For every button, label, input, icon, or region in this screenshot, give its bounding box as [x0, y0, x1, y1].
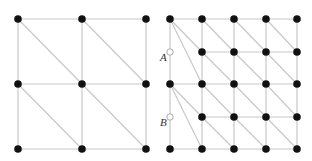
right-mesh-node — [166, 80, 174, 88]
right-mesh-edge — [202, 84, 234, 117]
left-mesh-node — [142, 15, 150, 23]
right-mesh-edge — [170, 84, 202, 149]
right-mesh-node — [230, 15, 238, 23]
right-mesh-edge — [234, 52, 266, 84]
right-mesh-node — [262, 145, 270, 153]
right-refined-mesh — [166, 15, 301, 153]
hanging-node-a — [167, 49, 173, 55]
mesh-diagram: A B — [0, 0, 312, 161]
left-mesh-node — [142, 80, 150, 88]
left-mesh-node — [14, 80, 22, 88]
right-mesh-edge — [234, 19, 266, 52]
right-mesh-node — [198, 145, 206, 153]
right-mesh-node — [293, 145, 301, 153]
hanging-node-b — [167, 114, 173, 120]
right-mesh-edge — [234, 84, 266, 117]
right-mesh-node — [230, 48, 238, 56]
left-mesh-node — [142, 145, 150, 153]
right-mesh-node — [293, 15, 301, 23]
right-mesh-edge — [234, 117, 266, 149]
right-mesh-edge — [266, 52, 297, 84]
right-mesh-node — [262, 48, 270, 56]
right-mesh-edge — [202, 19, 234, 52]
right-mesh-node — [198, 113, 206, 121]
right-mesh-node — [198, 80, 206, 88]
left-mesh-edge — [18, 19, 82, 84]
right-mesh-edge — [170, 19, 202, 52]
hanging-node-label-b: B — [160, 116, 167, 128]
right-mesh-edge — [202, 52, 234, 84]
right-mesh-node — [293, 48, 301, 56]
left-mesh-node — [78, 15, 86, 23]
left-coarse-mesh — [14, 15, 150, 153]
right-mesh-node — [230, 113, 238, 121]
left-mesh-edge — [18, 84, 82, 149]
left-mesh-edge — [82, 19, 146, 84]
right-mesh-node — [262, 15, 270, 23]
right-mesh-edge — [170, 84, 202, 117]
left-mesh-node — [78, 145, 86, 153]
right-mesh-node — [198, 48, 206, 56]
right-mesh-edge — [266, 19, 297, 52]
right-mesh-node — [293, 113, 301, 121]
left-mesh-node — [14, 145, 22, 153]
right-mesh-edge — [266, 117, 297, 149]
right-mesh-node — [166, 145, 174, 153]
right-mesh-edge — [202, 117, 234, 149]
left-mesh-node — [14, 15, 22, 23]
right-mesh-node — [293, 80, 301, 88]
right-mesh-node — [198, 15, 206, 23]
hanging-node-label-a: A — [159, 51, 167, 63]
right-mesh-node — [262, 80, 270, 88]
right-mesh-edge — [170, 19, 202, 84]
left-mesh-edge — [82, 84, 146, 149]
right-mesh-node — [166, 15, 174, 23]
right-mesh-node — [230, 80, 238, 88]
left-mesh-node — [78, 80, 86, 88]
right-mesh-edge — [266, 84, 297, 117]
right-mesh-node — [262, 113, 270, 121]
right-mesh-node — [230, 145, 238, 153]
